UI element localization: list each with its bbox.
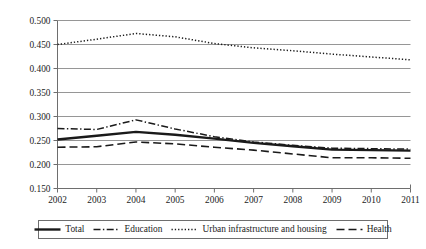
x-tick-label: 2005 xyxy=(166,195,185,205)
legend-swatch-dotted xyxy=(171,224,198,235)
gridlines xyxy=(58,21,411,189)
legend-swatch-solid-thick xyxy=(34,224,61,235)
legend-entry-health[interactable]: Health xyxy=(336,224,392,235)
x-tick-label: 2006 xyxy=(205,195,224,205)
y-tick-label: 0.350 xyxy=(29,88,50,98)
x-tick-label: 2004 xyxy=(127,195,146,205)
legend-entry-education[interactable]: Education xyxy=(93,224,162,235)
y-tick-label: 0.500 xyxy=(29,16,50,26)
legend-entry-total[interactable]: Total xyxy=(34,224,84,235)
y-tick-label: 0.400 xyxy=(29,64,50,74)
x-tick-label: 2007 xyxy=(244,195,263,205)
legend-label: Urban infrastructure and housing xyxy=(202,225,326,234)
chart-legend: TotalEducationUrban infrastructure and h… xyxy=(38,220,388,239)
line-chart: 0.5000.4500.4000.3500.3000.2500.2000.150… xyxy=(0,0,426,205)
series-line-urban-infrastructure-and-housing xyxy=(58,33,411,59)
x-axis-ticks: 2002200320042005200620072008200920102011 xyxy=(48,189,420,206)
chart-figure: 0.5000.4500.4000.3500.3000.2500.2000.150… xyxy=(0,0,426,249)
legend-label: Total xyxy=(65,225,84,234)
x-tick-label: 2002 xyxy=(48,195,67,205)
y-tick-label: 0.250 xyxy=(29,136,50,146)
x-tick-label: 2009 xyxy=(323,195,342,205)
legend-swatch-dash-dot xyxy=(93,224,120,235)
x-tick-label: 2003 xyxy=(87,195,106,205)
legend-entry-urban-infrastructure-and-housing[interactable]: Urban infrastructure and housing xyxy=(171,224,326,235)
y-tick-label: 0.450 xyxy=(29,40,50,50)
y-tick-label: 0.200 xyxy=(29,160,50,170)
y-tick-label: 0.150 xyxy=(29,184,50,194)
legend-swatch-long-dash xyxy=(336,224,363,235)
x-tick-label: 2010 xyxy=(362,195,381,205)
x-tick-label: 2011 xyxy=(401,195,420,205)
legend-label: Health xyxy=(367,225,392,234)
axis-lines xyxy=(58,21,411,189)
chart-canvas: 0.5000.4500.4000.3500.3000.2500.2000.150… xyxy=(0,0,426,205)
data-series-group xyxy=(58,33,411,158)
y-axis-ticks: 0.5000.4500.4000.3500.3000.2500.2000.150 xyxy=(29,16,57,194)
y-tick-label: 0.300 xyxy=(29,112,50,122)
legend-label: Education xyxy=(124,225,162,234)
x-tick-label: 2008 xyxy=(283,195,302,205)
